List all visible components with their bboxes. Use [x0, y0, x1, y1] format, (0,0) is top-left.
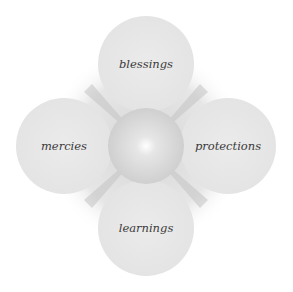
- label-bottom: learnings: [119, 221, 174, 235]
- four-petal-diagram: blessingsmerciesprotectionslearnings: [0, 0, 293, 292]
- label-right: protections: [195, 139, 261, 153]
- label-left: mercies: [41, 139, 87, 153]
- center-circle: [108, 108, 184, 184]
- label-top: blessings: [119, 57, 173, 71]
